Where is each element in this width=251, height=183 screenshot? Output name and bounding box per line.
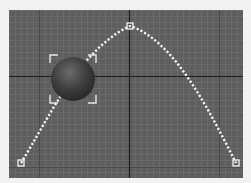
grid-minor-lines (9, 10, 243, 178)
sphere[interactable] (51, 57, 95, 101)
viewport-canvas[interactable] (9, 10, 243, 178)
viewport-frame (0, 0, 251, 183)
selection-bracket-corner (88, 95, 96, 103)
sphere-object[interactable] (51, 57, 95, 101)
perspective-viewport[interactable] (9, 10, 243, 178)
